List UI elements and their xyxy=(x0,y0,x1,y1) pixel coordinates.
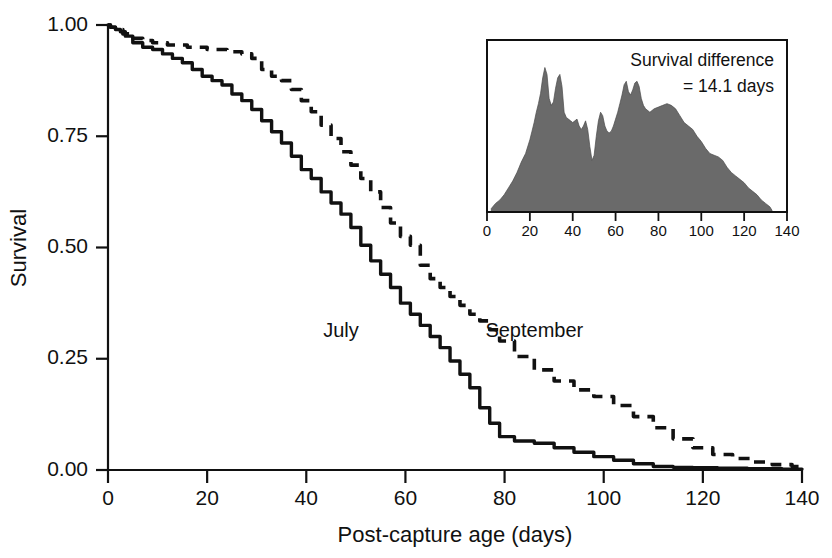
inset-annotation-line1: Survival difference xyxy=(630,50,774,70)
inset-tick-label: 120 xyxy=(732,222,757,239)
series-label-september: September xyxy=(485,319,583,341)
inset-tick-label: 60 xyxy=(607,222,624,239)
inset-chart: 020406080100120140 Survival difference =… xyxy=(483,40,800,239)
inset-tick-label: 20 xyxy=(522,222,539,239)
x-axis-tick-group: 020406080100120140 xyxy=(102,470,819,509)
inset-tick-label: 100 xyxy=(689,222,714,239)
y-tick-label: 0.00 xyxy=(47,457,88,480)
inset-tick-label: 0 xyxy=(483,222,491,239)
series-label-group: JulySeptember xyxy=(323,319,583,341)
series-label-july: July xyxy=(323,319,359,341)
x-tick-label: 80 xyxy=(493,486,516,509)
inset-annotation-line2: = 14.1 days xyxy=(683,76,774,96)
x-tick-label: 40 xyxy=(295,486,318,509)
x-tick-label: 20 xyxy=(195,486,218,509)
survival-figure: 0.000.250.500.751.00 020406080100120140 … xyxy=(0,0,832,558)
y-axis-title: Survival xyxy=(6,209,31,287)
x-tick-label: 0 xyxy=(102,486,114,509)
chart-canvas: 0.000.250.500.751.00 020406080100120140 … xyxy=(0,0,832,558)
x-tick-label: 100 xyxy=(586,486,621,509)
y-tick-label: 0.50 xyxy=(47,234,88,257)
y-axis-tick-group: 0.000.250.500.751.00 xyxy=(47,12,108,480)
inset-tick-label: 40 xyxy=(564,222,581,239)
inset-tick-label: 140 xyxy=(774,222,799,239)
inset-tick-group: 020406080100120140 xyxy=(483,212,800,239)
x-tick-label: 60 xyxy=(394,486,417,509)
x-tick-label: 140 xyxy=(784,486,819,509)
inset-tick-label: 80 xyxy=(650,222,667,239)
y-tick-label: 1.00 xyxy=(47,12,88,35)
x-tick-label: 120 xyxy=(685,486,720,509)
x-axis-title: Post-capture age (days) xyxy=(338,522,573,547)
y-tick-label: 0.25 xyxy=(47,345,88,368)
y-tick-label: 0.75 xyxy=(47,123,88,146)
